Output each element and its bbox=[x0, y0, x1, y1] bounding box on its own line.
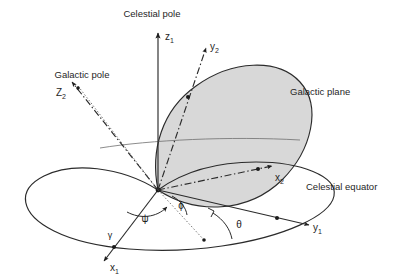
axis-z2-line bbox=[72, 82, 158, 190]
label-galactic-plane: Galactic plane bbox=[290, 86, 350, 97]
node-dot-y1 bbox=[275, 216, 279, 220]
axis-label-z2: Z2 bbox=[56, 87, 66, 100]
angle-label-theta: θ bbox=[236, 219, 242, 230]
node-dot-z2 bbox=[76, 86, 80, 90]
label-celestial-pole: Celestial pole bbox=[123, 8, 180, 19]
axis-label-y1: y1 bbox=[313, 222, 322, 235]
angle-label-psi: ψ bbox=[141, 213, 148, 224]
label-galactic-pole: Galactic pole bbox=[55, 69, 110, 80]
axis-label-x1: x1 bbox=[110, 262, 119, 275]
node-dot-y2 bbox=[186, 95, 190, 99]
angle-arc-theta bbox=[213, 213, 232, 239]
diagram-canvas: Celestial pole Galactic pole Galactic pl… bbox=[0, 0, 404, 278]
coordinate-diagram: Celestial pole Galactic pole Galactic pl… bbox=[0, 0, 404, 278]
node-dot-gamma bbox=[112, 245, 116, 249]
angle-label-phi: ϕ bbox=[178, 200, 184, 211]
axis-label-z1: z1 bbox=[165, 31, 174, 44]
right-angle-tick-theta bbox=[208, 208, 214, 217]
axis-label-y2: y2 bbox=[210, 41, 219, 54]
label-celestial-equator: Celestial equator bbox=[306, 181, 377, 192]
galactic-plane-fill bbox=[156, 65, 312, 207]
node-dot-x2 bbox=[256, 167, 260, 171]
node-dot-ascending bbox=[202, 238, 206, 242]
vernal-equinox-symbol: γ bbox=[108, 230, 113, 240]
galactic-plane-region bbox=[156, 65, 312, 207]
